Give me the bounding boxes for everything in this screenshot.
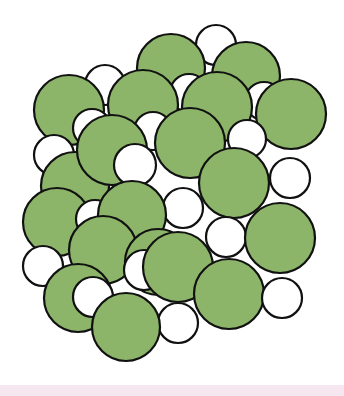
- small-white-sphere: [206, 217, 246, 257]
- small-white-sphere: [270, 158, 310, 198]
- large-green-sphere: [245, 203, 315, 273]
- small-white-sphere: [262, 278, 302, 318]
- sphere-packing-diagram: [0, 0, 344, 396]
- small-white-sphere: [163, 188, 203, 228]
- large-green-sphere: [92, 293, 160, 361]
- small-white-sphere: [114, 144, 156, 186]
- large-green-sphere: [199, 148, 269, 218]
- large-green-sphere: [194, 259, 264, 329]
- bottom-band: [0, 385, 344, 396]
- small-white-sphere: [158, 303, 198, 343]
